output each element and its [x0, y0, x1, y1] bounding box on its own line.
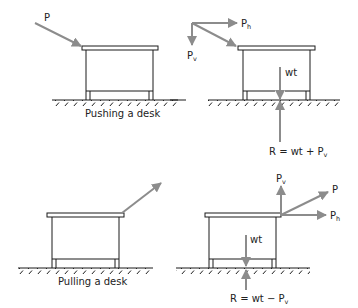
force-label-pv: Pv	[276, 173, 286, 186]
panel-pushing-components: Ph Pv wt R = wt + Pv	[170, 18, 340, 159]
ground	[18, 268, 153, 274]
ground	[52, 100, 178, 106]
desk	[82, 46, 158, 100]
ground	[176, 268, 310, 274]
panel-pulling: Pulling a desk	[18, 183, 161, 287]
weight-label: wt	[285, 67, 297, 78]
caption-pulling: Pulling a desk	[58, 276, 127, 287]
caption-pushing: Pushing a desk	[85, 108, 160, 119]
push-force-arrow	[192, 23, 236, 46]
force-label-ph: Ph	[241, 18, 251, 31]
push-force-arrow	[35, 23, 81, 46]
force-label-p: P	[44, 12, 50, 23]
reaction-equation: R = wt + Pv	[269, 146, 328, 159]
ground	[170, 100, 340, 106]
desk	[47, 213, 124, 268]
force-label-ph: Ph	[330, 210, 340, 223]
desk	[205, 213, 281, 268]
pull-force-arrow	[281, 192, 328, 215]
reaction-equation: R = wt − Pv	[230, 293, 289, 306]
force-label-p: P	[332, 184, 338, 195]
force-label-pv: Pv	[187, 50, 197, 63]
panel-pushing: P Pushing a desk	[35, 12, 178, 119]
panel-pulling-components: Pv P Ph wt R = wt − Pv	[176, 173, 340, 306]
pull-force-arrow	[122, 183, 161, 213]
desk	[238, 46, 315, 100]
weight-label: wt	[250, 234, 262, 245]
desk-force-diagram: P Pushing a desk Ph Pv wt R = wt + Pv	[0, 0, 358, 308]
